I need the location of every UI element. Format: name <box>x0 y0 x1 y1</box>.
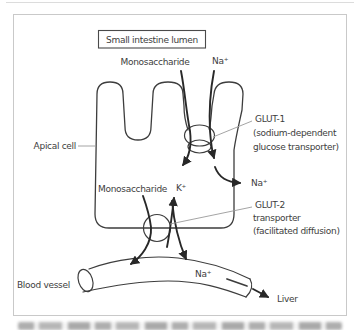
monosaccharide-inner-label: Monosaccharide <box>98 184 168 194</box>
glut1-label-line3: glucose transporter) <box>253 142 339 152</box>
glut1-label-line1: GLUT-1 <box>255 114 285 124</box>
lumen-title: Small intestine lumen <box>106 35 198 45</box>
liver-label: Liver <box>277 294 298 304</box>
monosaccharide-top-label: Monosaccharide <box>120 57 190 67</box>
cropped-caption-text <box>18 322 342 330</box>
blood-vessel-label: Blood vessel <box>17 280 70 290</box>
na-exit-label: Na⁺ <box>251 178 268 188</box>
glut2-label-line2: transporter <box>253 213 301 223</box>
glut2-label-line1: GLUT-2 <box>255 200 285 210</box>
k-ion-label: K⁺ <box>176 183 187 193</box>
na-top-label: Na⁺ <box>212 56 229 66</box>
page-top-rule <box>6 2 354 3</box>
glut1-label-line2: (sodium-dependent <box>253 128 337 138</box>
apical-cell-label: Apical cell <box>34 141 76 151</box>
na-vessel-label: Na⁺ <box>195 269 212 279</box>
absorption-diagram: Small intestine lumen Monosaccharide Na⁺ <box>0 0 360 330</box>
figure-small-intestine-absorption: Small intestine lumen Monosaccharide Na⁺ <box>0 0 360 330</box>
glut2-label-line3: (facilitated diffusion) <box>253 226 340 236</box>
